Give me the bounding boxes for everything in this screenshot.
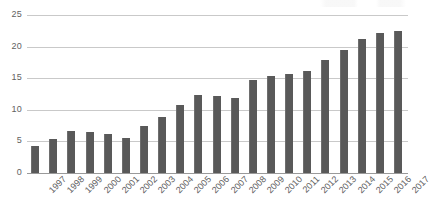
x-tick-label: 1998 [65, 174, 86, 195]
y-tick-label: 5 [0, 136, 22, 145]
x-tick-label: 2003 [156, 174, 177, 195]
x-tick-label: 2004 [174, 174, 195, 195]
bar [86, 132, 94, 173]
x-tick-label: 2014 [355, 174, 376, 195]
bar [67, 131, 75, 173]
bar [213, 96, 221, 173]
bar [394, 31, 402, 173]
y-tick-label: 20 [0, 42, 22, 51]
y-tick-label: 25 [0, 10, 22, 19]
bar [340, 50, 348, 173]
bar [376, 33, 384, 173]
bar [31, 146, 39, 173]
x-tick-label: 2011 [301, 174, 322, 195]
bar [249, 80, 257, 173]
bar [358, 39, 366, 173]
x-axis-tick-labels: 1997199819992000200120022003200420052006… [27, 174, 408, 212]
bar [176, 105, 184, 173]
x-tick-label: 2013 [337, 174, 358, 195]
x-tick-label: 2006 [210, 174, 231, 195]
x-tick-label: 2007 [228, 174, 249, 195]
x-tick-label: 2015 [374, 174, 395, 195]
plot-area [27, 15, 408, 173]
x-tick-label: 2010 [283, 174, 304, 195]
x-tick-label: 2016 [392, 174, 413, 195]
x-tick-label: 2008 [247, 174, 268, 195]
x-tick-label: 2001 [120, 174, 141, 195]
bar [158, 117, 166, 173]
cropped-header-artifact [320, 0, 413, 7]
x-tick-label: 2005 [192, 174, 213, 195]
bar [122, 138, 130, 173]
bar-series [27, 15, 408, 173]
bar [285, 74, 293, 173]
x-tick-label: 2012 [319, 174, 340, 195]
x-tick-label: 1997 [47, 174, 68, 195]
x-tick-label: 2009 [265, 174, 286, 195]
bar [104, 134, 112, 173]
bar [267, 76, 275, 173]
x-tick-label: 1999 [83, 174, 104, 195]
x-tick-label: 2002 [138, 174, 159, 195]
bar [303, 71, 311, 173]
x-tick-label: 2000 [101, 174, 122, 195]
y-tick-label: 10 [0, 105, 22, 114]
y-tick-label: 15 [0, 73, 22, 82]
y-tick-label: 0 [0, 168, 22, 177]
bar [231, 98, 239, 173]
bar [49, 139, 57, 173]
bar [194, 95, 202, 173]
x-tick-label: 2017 [410, 174, 431, 195]
bar [321, 60, 329, 173]
bar [140, 126, 148, 173]
